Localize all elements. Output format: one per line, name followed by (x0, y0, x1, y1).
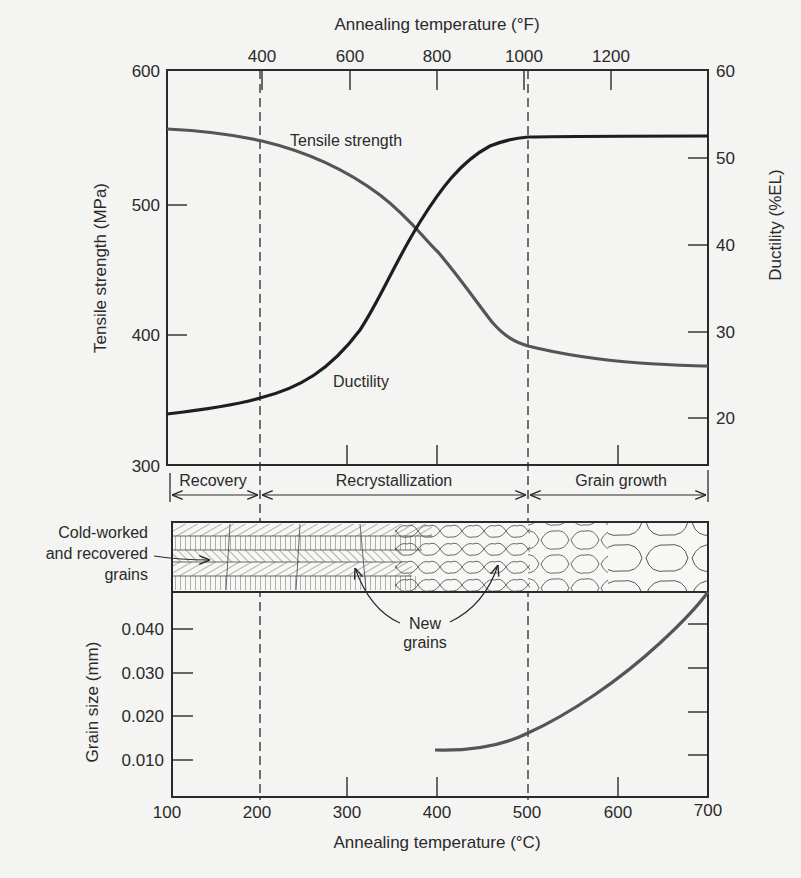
annealing-chart: Annealing temperature (°F) 400 600 800 1… (0, 0, 801, 878)
el-tick-50: 50 (716, 149, 735, 168)
grain-right-ticks (688, 624, 708, 755)
celsius-ticks-bottom (347, 777, 618, 797)
ductility-label: Ductility (333, 373, 389, 390)
c-tick-700: 700 (694, 801, 722, 820)
left-ticks (167, 205, 187, 335)
el-tick-60: 60 (716, 62, 735, 81)
tensile-strength-curve (167, 129, 708, 366)
grain-axis-title: Grain size (mm) (83, 642, 102, 763)
region-recrystallization-label: Recrystallization (336, 472, 452, 489)
new-grains-label-line2: grains (403, 634, 447, 651)
c-tick-200: 200 (243, 803, 271, 822)
right-axis-title: Ductility (%EL) (766, 169, 785, 280)
region-grain-growth-label: Grain growth (575, 472, 667, 489)
celsius-ticks-top (347, 445, 618, 465)
cold-worked-label-line3: grains (104, 566, 148, 583)
c-tick-100: 100 (153, 803, 181, 822)
grain-tick-0040: 0.040 (121, 620, 164, 639)
fahrenheit-ticks (262, 70, 611, 90)
left-axis-title: Tensile strength (MPa) (91, 183, 110, 353)
f-tick-400: 400 (248, 47, 276, 66)
el-tick-labels: 60 50 40 30 20 (716, 62, 735, 428)
bottom-axis-title: Annealing temperature (°C) (333, 833, 540, 852)
f-tick-600: 600 (336, 47, 364, 66)
ductility-curve (167, 136, 708, 414)
f-tick-800: 800 (423, 47, 451, 66)
f-tick-1000: 1000 (505, 47, 543, 66)
el-tick-30: 30 (716, 323, 735, 342)
top-plot-frame (167, 70, 708, 465)
grain-left-ticks (172, 629, 193, 760)
grain-tick-0020: 0.020 (121, 707, 164, 726)
mpa-tick-300: 300 (132, 457, 160, 476)
celsius-tick-labels: 100 200 300 400 500 600 700 (153, 801, 722, 822)
el-tick-20: 20 (716, 409, 735, 428)
top-axis-title: Annealing temperature (°F) (334, 15, 539, 34)
cold-worked-label-line2: and recovered (46, 545, 148, 562)
grain-tick-0010: 0.010 (121, 751, 164, 770)
cold-worked-label-line1: Cold-worked (58, 524, 148, 541)
grain-tick-0030: 0.030 (121, 664, 164, 683)
region-recovery-label: Recovery (179, 472, 247, 489)
grain-tick-labels: 0.040 0.030 0.020 0.010 (121, 620, 164, 770)
right-ticks (688, 158, 708, 418)
el-tick-40: 40 (716, 236, 735, 255)
microstructure-band (172, 522, 708, 592)
tensile-strength-label: Tensile strength (290, 132, 402, 149)
fahrenheit-tick-labels: 400 600 800 1000 1200 (248, 47, 630, 66)
mpa-tick-labels: 600 500 400 300 (132, 62, 160, 476)
c-tick-600: 600 (604, 803, 632, 822)
c-tick-300: 300 (333, 803, 361, 822)
mpa-tick-600: 600 (132, 62, 160, 81)
mpa-tick-500: 500 (132, 196, 160, 215)
c-tick-500: 500 (513, 803, 541, 822)
grain-size-curve (435, 592, 708, 750)
region-annotations: Recovery Recrystallization Grain growth (170, 470, 708, 502)
c-tick-400: 400 (423, 803, 451, 822)
f-tick-1200: 1200 (592, 47, 630, 66)
new-grains-label-line1: New (409, 615, 441, 632)
mpa-tick-400: 400 (132, 326, 160, 345)
